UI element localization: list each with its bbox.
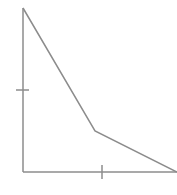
piecewise-linear-curve xyxy=(23,8,177,172)
diagram-canvas xyxy=(0,0,177,195)
